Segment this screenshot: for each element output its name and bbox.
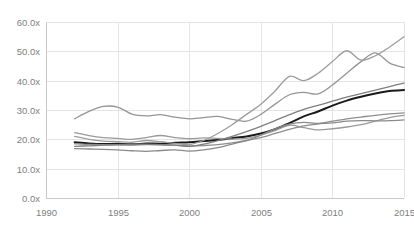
x-axis-tick-label: 2015 <box>394 207 414 218</box>
y-axis-tick-label: 20.0x <box>17 134 40 145</box>
x-axis-tick-label: 1995 <box>108 207 129 218</box>
y-axis-tick-label: 10.0x <box>17 164 40 175</box>
grid-layer <box>46 22 405 198</box>
x-axis-tick-label: 2010 <box>322 207 343 218</box>
x-axis-tick-label: 2005 <box>251 207 272 218</box>
chart-canvas: 0.0x10.0x20.0x30.0x40.0x50.0x60.0x 19901… <box>0 0 414 229</box>
x-axis-tick-label: 1990 <box>36 207 57 218</box>
series-layer <box>75 37 404 152</box>
y-axis-tick-label: 50.0x <box>17 46 40 57</box>
y-axis-tick-label: 0.0x <box>22 193 40 204</box>
series-line-series-4-mid-low <box>75 113 404 146</box>
y-axis-tick-label: 60.0x <box>17 17 40 28</box>
line-chart-container: 0.0x10.0x20.0x30.0x40.0x50.0x60.0x 19901… <box>0 0 414 229</box>
y-axis-tick-label: 30.0x <box>17 105 40 116</box>
series-line-series-1-top <box>75 53 404 122</box>
x-axis-tick-labels: 199019952000200520102015 <box>36 207 414 218</box>
y-axis-tick-labels: 0.0x10.0x20.0x30.0x40.0x50.0x60.0x <box>17 17 40 204</box>
series-line-series-7-highest <box>75 37 404 145</box>
x-axis-tick-label: 2000 <box>179 207 200 218</box>
series-line-series-5-bottom <box>75 120 404 151</box>
y-axis-tick-label: 40.0x <box>17 76 40 87</box>
